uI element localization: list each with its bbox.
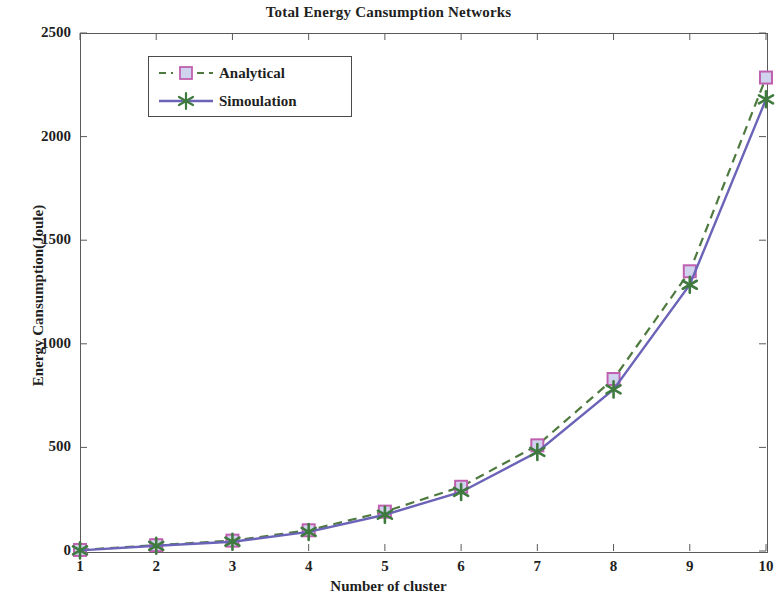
data-series-layer xyxy=(73,72,773,559)
legend-swatch-analytical xyxy=(157,61,215,85)
legend-item-simulation: Simoulation xyxy=(149,87,353,115)
chart-figure: Total Energy Cansumption Networks Energy… xyxy=(0,0,777,602)
y-tick-label: 2000 xyxy=(5,129,71,144)
data-point-analytical-10 xyxy=(760,72,772,84)
x-tick-label: 5 xyxy=(365,559,405,574)
x-tick-label: 3 xyxy=(212,559,252,574)
series-line-simoulation xyxy=(80,99,766,550)
legend-swatch-simulation xyxy=(157,89,215,113)
legend-label-simulation: Simoulation xyxy=(219,93,297,110)
x-tick-label: 10 xyxy=(746,559,777,574)
x-tick-label: 8 xyxy=(594,559,634,574)
y-tick-label: 1000 xyxy=(5,336,71,351)
x-tick-label: 4 xyxy=(289,559,329,574)
x-tick-label: 6 xyxy=(441,559,481,574)
legend-label-analytical: Analytical xyxy=(219,65,285,82)
x-tick-label: 7 xyxy=(517,559,557,574)
x-tick-label: 9 xyxy=(670,559,710,574)
y-axis-label: Energy Cansumption(Joule) xyxy=(30,146,47,446)
series-line-analytical xyxy=(80,78,766,550)
chart-legend: Analytical Simoulation xyxy=(148,56,352,117)
legend-item-analytical: Analytical xyxy=(149,59,353,87)
x-tick-label: 2 xyxy=(136,559,176,574)
data-point-simoulation-10 xyxy=(759,91,773,107)
y-tick-label: 2500 xyxy=(5,25,71,40)
y-tick-label: 0 xyxy=(5,543,71,558)
x-tick-label: 1 xyxy=(60,559,100,574)
x-axis-label: Number of cluster xyxy=(0,578,777,595)
y-tick-label: 500 xyxy=(5,439,71,454)
y-tick-label: 1500 xyxy=(5,232,71,247)
chart-title: Total Energy Cansumption Networks xyxy=(0,4,777,21)
